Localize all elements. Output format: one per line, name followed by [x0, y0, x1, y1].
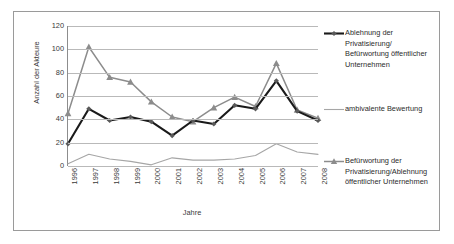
gridline — [68, 166, 318, 167]
legend-item[interactable]: Ablehnung der Privatisierung/ Befürwortu… — [324, 28, 436, 71]
x-tick-label: 2007 — [299, 168, 308, 184]
x-axis-title: Jahre — [67, 208, 317, 217]
y-tick-label: 0 — [38, 162, 64, 169]
gridline — [68, 49, 318, 50]
legend-item[interactable]: ambivalente Bewertung — [324, 104, 436, 115]
series-line — [68, 81, 318, 144]
y-axis-tick-labels: 120100806040200 — [38, 26, 64, 166]
data-point-marker — [210, 104, 217, 110]
plain-line-icon — [324, 105, 344, 114]
diamond-marker-icon — [324, 29, 344, 38]
chart-frame: Anzahl der Akteure 120100806040200 19961… — [13, 11, 440, 231]
legend-label: Befürwortung der Privatisierung/Ablehnun… — [344, 156, 436, 188]
gridline — [68, 143, 318, 144]
gridline — [68, 73, 318, 74]
x-tick-label: 2004 — [237, 168, 246, 184]
x-axis-tick-labels: 1996199719981999200020012002200320042005… — [67, 168, 317, 208]
y-tick-label: 80 — [38, 69, 64, 76]
y-tick-label: 40 — [38, 116, 64, 123]
plot-area-wrapper: Anzahl der Akteure 120100806040200 19961… — [14, 12, 439, 230]
triangle-marker-icon — [324, 157, 344, 166]
x-tick-label: 1998 — [112, 168, 121, 184]
gridline — [68, 26, 318, 27]
legend-item[interactable]: Befürwortung der Privatisierung/Ablehnun… — [324, 156, 436, 188]
x-tick-label: 1997 — [91, 168, 100, 184]
x-tick-label: 2003 — [216, 168, 225, 184]
x-tick-label: 2005 — [258, 168, 267, 184]
gridline — [68, 96, 318, 97]
series-line — [68, 47, 318, 122]
y-tick-label: 100 — [38, 46, 64, 53]
data-point-marker — [331, 31, 336, 36]
x-tick-label: 1996 — [70, 168, 79, 184]
x-tick-label: 2002 — [195, 168, 204, 184]
x-tick-label: 2006 — [278, 168, 287, 184]
y-tick-label: 120 — [38, 22, 64, 29]
legend-label: ambivalente Bewertung — [344, 104, 422, 115]
series-line — [68, 144, 318, 165]
plot-area — [67, 26, 318, 166]
data-point-marker — [65, 110, 72, 116]
x-tick-label: 1999 — [133, 168, 142, 184]
legend-label: Ablehnung der Privatisierung/ Befürwortu… — [344, 28, 436, 71]
gridline — [68, 119, 318, 120]
y-tick-label: 20 — [38, 139, 64, 146]
x-tick-label: 2000 — [153, 168, 162, 184]
data-point-marker — [273, 60, 280, 66]
y-tick-label: 60 — [38, 92, 64, 99]
x-tick-label: 2001 — [174, 168, 183, 184]
